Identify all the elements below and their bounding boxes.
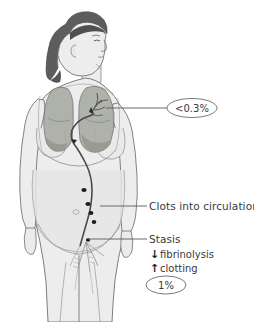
clot-marker bbox=[81, 188, 86, 192]
hand-right bbox=[121, 231, 133, 257]
annotation-pulmonary-embolism[interactable]: <0.3% bbox=[167, 99, 217, 118]
clot-marker bbox=[85, 202, 90, 206]
ear bbox=[71, 45, 76, 57]
annotation-label-clotting: clotting bbox=[160, 263, 198, 274]
clot-marker bbox=[89, 211, 94, 215]
body-figure bbox=[20, 12, 138, 322]
annotation-label-stasis: Stasis bbox=[149, 233, 181, 245]
annotation-fibrinolysis: ↓ fibrinolysis bbox=[150, 248, 214, 261]
annotation-label-clots: Clots into circulation bbox=[149, 200, 254, 212]
hand-left bbox=[24, 228, 36, 254]
annotation-dvt-incidence[interactable]: 1% bbox=[146, 276, 186, 294]
annotation-label-pulmonary: <0.3% bbox=[175, 103, 209, 114]
up-arrow-icon: ↑ bbox=[150, 262, 159, 275]
annotation-label-fibrinolysis: fibrinolysis bbox=[160, 249, 214, 260]
clot-marker bbox=[92, 220, 97, 224]
annotation-label-dvt: 1% bbox=[158, 280, 174, 291]
down-arrow-icon: ↓ bbox=[150, 248, 159, 261]
medical-illustration: <0.3% Clots into circulation Stasis ↓ fi… bbox=[0, 0, 254, 322]
annotation-clotting: ↑ clotting bbox=[150, 262, 198, 275]
